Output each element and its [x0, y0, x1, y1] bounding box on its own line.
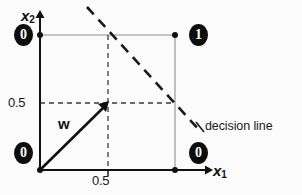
class-label-point-1-0: 0	[189, 142, 208, 164]
y-axis-label-subscript: 2	[29, 14, 35, 25]
decision-line-label: decision line	[205, 120, 273, 133]
figure-canvas: x2 x1 0.5 0.5 w decision line 0 1 0 0	[0, 0, 302, 195]
dot-point-0-0	[37, 167, 43, 173]
y-axis-arrowhead	[36, 10, 45, 18]
plot-svg	[0, 0, 302, 195]
y-tick-label-05: 0.5	[8, 96, 25, 109]
dot-point-0-1	[37, 32, 43, 38]
dot-point-1-1	[172, 32, 178, 38]
x-tick-label-05: 0.5	[92, 174, 109, 187]
decision-line	[87, 7, 201, 132]
class-label-point-1-1: 1	[189, 24, 208, 46]
dot-point-1-0	[172, 167, 178, 173]
weight-vector	[41, 101, 109, 169]
weight-vector-shaft	[41, 107, 104, 169]
y-axis-label: x2	[21, 8, 35, 25]
x-axis-label-subscript: 1	[221, 169, 227, 180]
class-label-point-0-0: 0	[14, 142, 33, 164]
class-label-point-0-1: 0	[14, 24, 33, 46]
x-axis-arrowhead	[205, 166, 213, 175]
weight-vector-label: w	[58, 116, 70, 131]
x-axis-label: x1	[213, 163, 227, 180]
